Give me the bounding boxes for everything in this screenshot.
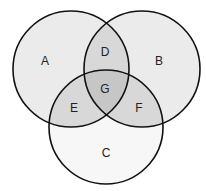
venn-diagram: A B C D E F G <box>0 0 206 191</box>
region-label-a: A <box>41 54 49 68</box>
region-label-c: C <box>102 146 111 160</box>
region-label-b: B <box>155 54 163 68</box>
region-label-e: E <box>70 101 78 115</box>
region-label-g: G <box>100 82 109 96</box>
region-label-d: D <box>101 45 110 59</box>
region-label-f: F <box>135 101 142 115</box>
